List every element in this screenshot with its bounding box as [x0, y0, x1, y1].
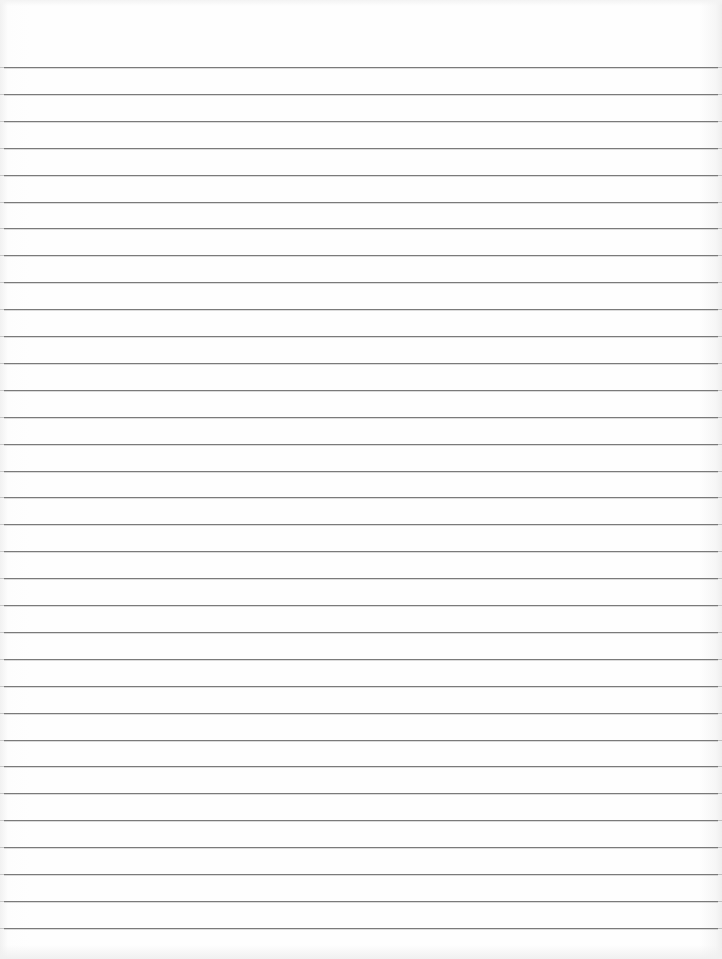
ruled-line [4, 874, 718, 875]
ruled-line [4, 901, 718, 902]
ruled-line [4, 820, 718, 821]
ruled-line [4, 766, 718, 767]
ruled-line [4, 255, 718, 256]
ruled-line [4, 390, 718, 391]
ruled-line [4, 282, 718, 283]
ruled-line [4, 632, 718, 633]
ruled-line [4, 524, 718, 525]
ruled-line [4, 605, 718, 606]
lined-paper-page [0, 0, 722, 959]
ruled-line [4, 121, 718, 122]
ruled-line [4, 67, 718, 68]
ruled-line [4, 309, 718, 310]
ruled-line [4, 94, 718, 95]
ruled-line [4, 740, 718, 741]
ruled-line [4, 336, 718, 337]
ruled-line [4, 497, 718, 498]
ruled-line [4, 228, 718, 229]
ruled-line [4, 686, 718, 687]
ruled-line [4, 444, 718, 445]
ruled-line [4, 471, 718, 472]
ruled-line [4, 578, 718, 579]
ruled-line [4, 363, 718, 364]
ruled-line [4, 202, 718, 203]
ruled-line [4, 847, 718, 848]
top-edge-shadow [0, 0, 722, 6]
ruled-line [4, 793, 718, 794]
ruled-line [4, 551, 718, 552]
bottom-edge-shadow [0, 945, 722, 959]
ruled-line [4, 148, 718, 149]
ruled-line [4, 713, 718, 714]
ruled-line [4, 659, 718, 660]
ruled-line [4, 175, 718, 176]
ruled-line [4, 417, 718, 418]
ruled-line [4, 928, 718, 929]
